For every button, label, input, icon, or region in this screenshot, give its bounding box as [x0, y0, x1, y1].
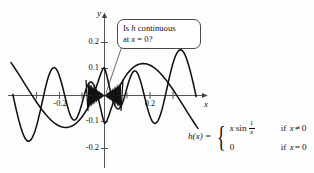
y-tick-label-neg0.1: -0.1	[78, 116, 99, 125]
formula-cases: x sin 1 x if x≠0 0 if x=0	[230, 120, 308, 152]
callout-line-2: at x = 0?	[123, 34, 195, 45]
x-axis-label: x	[204, 99, 208, 109]
case1-cond-pre: if	[280, 123, 290, 133]
case2-expression: 0	[230, 142, 280, 152]
x-tick-label-neg0.2: -0.2	[48, 99, 72, 108]
y-tick-label-0.1: 0.1	[82, 63, 99, 72]
callout-line1-post: continuous	[136, 23, 176, 33]
case1-expression: x sin 1 x	[230, 120, 280, 136]
case2-cond-value: 0	[301, 142, 308, 152]
figure-container: 0.2 0.1 -0.1 -0.2 -0.2 0.2 y x Is h cont…	[0, 0, 314, 173]
callout-line-1: Is h continuous	[123, 23, 195, 34]
y-tick-label-0.2: 0.2	[82, 37, 99, 46]
case1-sin-operator: sin	[234, 123, 248, 133]
case2-cond-pre: if	[280, 142, 290, 152]
piecewise-formula: h(x) = { x sin 1 x if x≠0 0	[188, 120, 307, 152]
formula-lhs: h(x) =	[188, 131, 214, 141]
case1-fraction-numerator: 1	[250, 120, 254, 128]
formula-case-2: 0 if x=0	[230, 142, 308, 152]
case1-fraction: 1 x	[249, 120, 255, 136]
case2-value: 0	[230, 142, 235, 152]
equals-icon: =	[294, 142, 301, 152]
case1-fraction-denominator: x	[250, 129, 253, 137]
formula-case-1: x sin 1 x if x≠0	[230, 120, 308, 136]
case1-cond-value: 0	[301, 123, 308, 133]
callout-line2-post: = 0?	[135, 34, 152, 44]
not-equal-icon: ≠	[294, 123, 301, 133]
y-tick-label-neg0.2: -0.2	[78, 143, 99, 152]
y-axis-label: y	[97, 8, 101, 18]
x-tick-label-0.2: 0.2	[141, 99, 159, 108]
case2-condition: if x=0	[280, 142, 308, 152]
case1-condition: if x≠0	[280, 123, 308, 133]
continuity-question-callout: Is h continuous at x = 0?	[117, 19, 201, 49]
